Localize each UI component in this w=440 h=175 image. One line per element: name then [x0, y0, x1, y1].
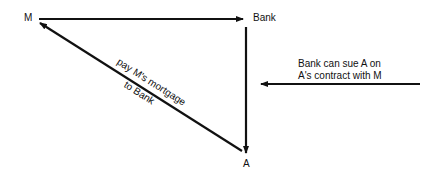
diagram-canvas [0, 0, 440, 175]
bank-can-sue-note-line2: A's contract with M [298, 70, 382, 82]
bank-can-sue-note-line1: Bank can sue A on [298, 58, 381, 70]
node-a-label: A [243, 158, 250, 170]
node-bank-label: Bank [253, 12, 276, 24]
node-m-label: M [24, 12, 32, 24]
